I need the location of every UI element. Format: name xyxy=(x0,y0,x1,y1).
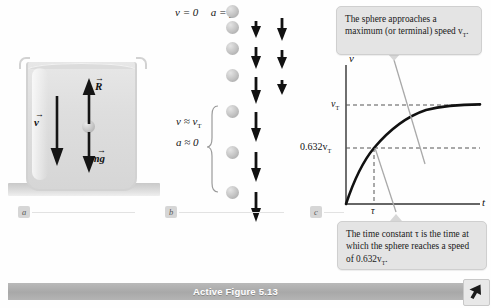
terminal-acceleration-label: a ≈ 0 xyxy=(176,134,201,151)
callout-bottom-line1: The time constant τ is the xyxy=(346,229,441,239)
velocity-arrow-icon xyxy=(46,96,68,168)
gravity-force-label: → mg xyxy=(91,152,105,164)
tick-label-0632vt: 0.632vT xyxy=(300,141,331,154)
down-arrow-icon xyxy=(251,47,261,69)
speed-curve xyxy=(346,104,480,204)
terminal-velocity-label: v ≈ vT xyxy=(176,113,201,134)
down-arrow-icon xyxy=(251,192,261,222)
down-arrow-icon xyxy=(251,112,261,142)
callout-top-pointer-icon xyxy=(388,54,400,61)
down-arrow-icon xyxy=(277,18,287,41)
curly-brace-icon xyxy=(207,106,218,192)
callout-terminal-speed: The sphere approaches a maximum (or term… xyxy=(336,6,482,55)
down-arrow-icon xyxy=(277,80,287,95)
callout-bottom-pointer-icon xyxy=(390,214,402,221)
panel-rule-c xyxy=(324,212,344,213)
down-arrow-icon xyxy=(251,21,261,38)
tick-label-vt: vT xyxy=(331,98,339,111)
down-arrow-icon xyxy=(251,152,261,182)
panel-marker-a: a xyxy=(18,206,30,218)
panel-rule-b xyxy=(179,212,284,213)
figure-caption-bar: Active Figure 5.13 xyxy=(8,283,463,300)
figure-container: → v → R → mg a xyxy=(0,0,491,308)
down-arrow-icon xyxy=(277,50,287,69)
callout-top-text: The sphere approaches a maximum (or term… xyxy=(345,14,463,36)
arrow-cursor-icon[interactable] xyxy=(463,279,490,306)
panel-marker-b: b xyxy=(165,206,177,218)
panel-marker-c: c xyxy=(310,206,322,218)
velocity-vector-label: → v xyxy=(34,116,39,128)
tick-label-tau: τ xyxy=(371,205,375,216)
beaker-lip-right xyxy=(136,57,147,69)
panel-rule-a xyxy=(32,212,135,213)
panel-b-falling-spheres: v = 0 a = g xyxy=(172,0,318,230)
terminal-conditions-label: v ≈ vT a ≈ 0 xyxy=(176,113,201,151)
callout-time-constant: The time constant τ is the time at which… xyxy=(337,221,487,270)
down-arrow-icon xyxy=(251,77,261,104)
x-axis-label: t xyxy=(482,196,485,208)
cursor-glyph xyxy=(464,280,487,303)
liquid-surface xyxy=(28,63,135,69)
resistive-force-label: → R xyxy=(95,80,102,92)
panel-a-beaker: → v → R → mg a xyxy=(0,0,172,230)
